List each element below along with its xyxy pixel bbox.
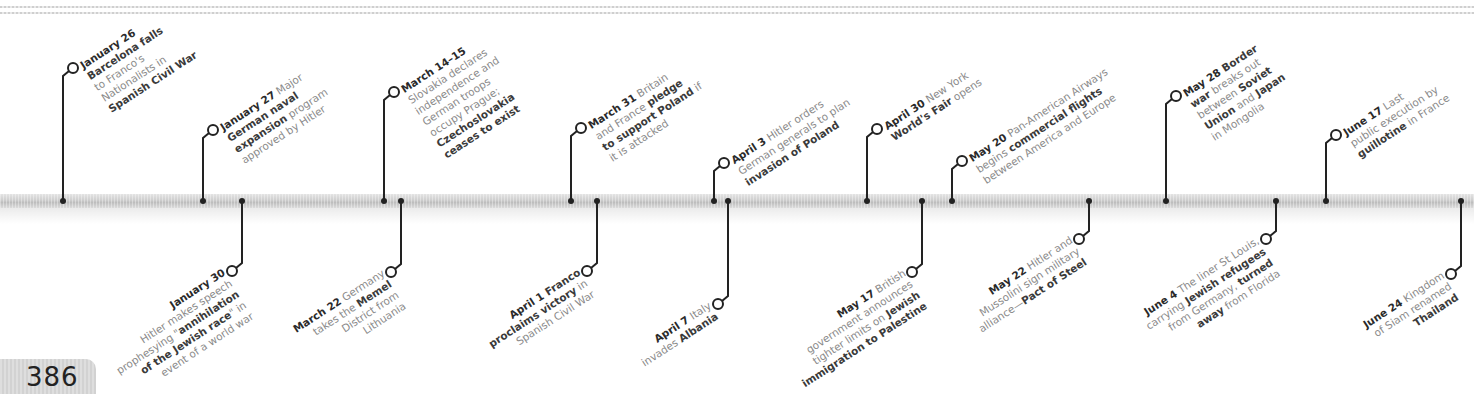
connector-line-icon: [0, 0, 1474, 394]
page-number-tab: 386: [0, 359, 96, 394]
page-number: 386: [26, 362, 79, 392]
